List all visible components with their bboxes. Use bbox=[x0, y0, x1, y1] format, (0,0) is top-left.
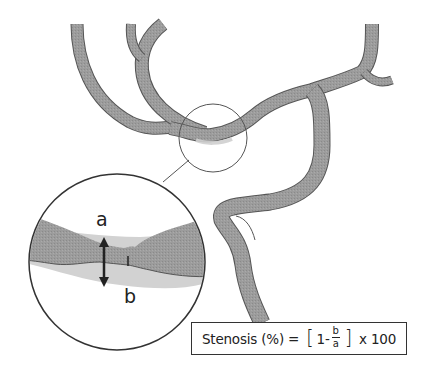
formula-suffix: x 100 bbox=[355, 331, 396, 347]
formula-close-bracket: ] bbox=[345, 328, 352, 347]
formula-fraction: b a bbox=[332, 326, 340, 349]
formula-one-minus: 1- bbox=[317, 331, 330, 347]
zoom-connector-line bbox=[163, 160, 189, 182]
fraction-numerator: b bbox=[332, 326, 340, 338]
fraction-denominator: a bbox=[333, 338, 339, 349]
label-a: a bbox=[96, 208, 108, 230]
magnified-view: a b bbox=[20, 174, 215, 350]
formula-open-bracket: [ bbox=[306, 328, 313, 347]
stenosis-diagram: a b bbox=[0, 0, 427, 377]
formula-prefix: Stenosis (%) = bbox=[202, 331, 303, 347]
stenosis-formula-box: Stenosis (%) = [ 1- b a ] x 100 bbox=[191, 322, 407, 355]
label-b: b bbox=[124, 285, 136, 307]
